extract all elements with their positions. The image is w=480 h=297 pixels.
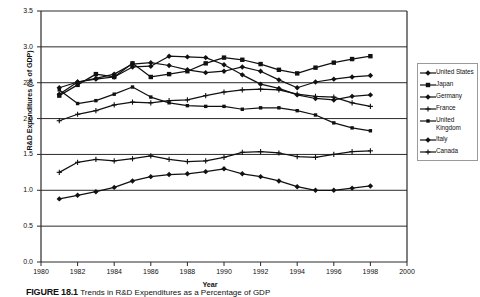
legend-item: France — [420, 104, 475, 113]
figure-number: FIGURE 18.1 — [26, 287, 78, 297]
figure-caption: FIGURE 18.1 Trends in R&D Expenditures a… — [26, 287, 480, 297]
figure-caption-text: Trends in R&D Expenditures as a Percenta… — [80, 288, 270, 297]
legend-label: France — [436, 104, 456, 112]
series-canada — [57, 148, 373, 175]
legend-item: Germany — [420, 92, 475, 101]
series-united-kingdom — [58, 85, 373, 132]
legend-label: United Kingdom — [436, 116, 475, 132]
legend-marker-icon — [420, 93, 436, 101]
legend-item: United States — [420, 68, 475, 77]
legend-label: United States — [436, 68, 474, 76]
series-italy — [57, 166, 374, 202]
legend-item: United Kingdom — [420, 116, 475, 132]
legend-marker-icon — [420, 117, 436, 125]
legend-item: Italy — [420, 135, 475, 144]
legend-marker-icon — [420, 81, 436, 89]
legend-label: Italy — [436, 135, 447, 143]
legend-item: Japan — [420, 80, 475, 89]
legend-item: Canada — [420, 147, 475, 156]
chart-legend: United StatesJapanGermanyFranceUnited Ki… — [417, 63, 478, 161]
legend-label: Germany — [436, 92, 462, 100]
legend-marker-icon — [420, 105, 436, 113]
series-france — [57, 87, 373, 124]
legend-marker-icon — [420, 69, 436, 77]
series-germany — [57, 53, 374, 102]
legend-marker-icon — [420, 148, 436, 156]
legend-label: Japan — [436, 80, 453, 88]
legend-label: Canada — [436, 147, 458, 155]
legend-marker-icon — [420, 136, 436, 144]
